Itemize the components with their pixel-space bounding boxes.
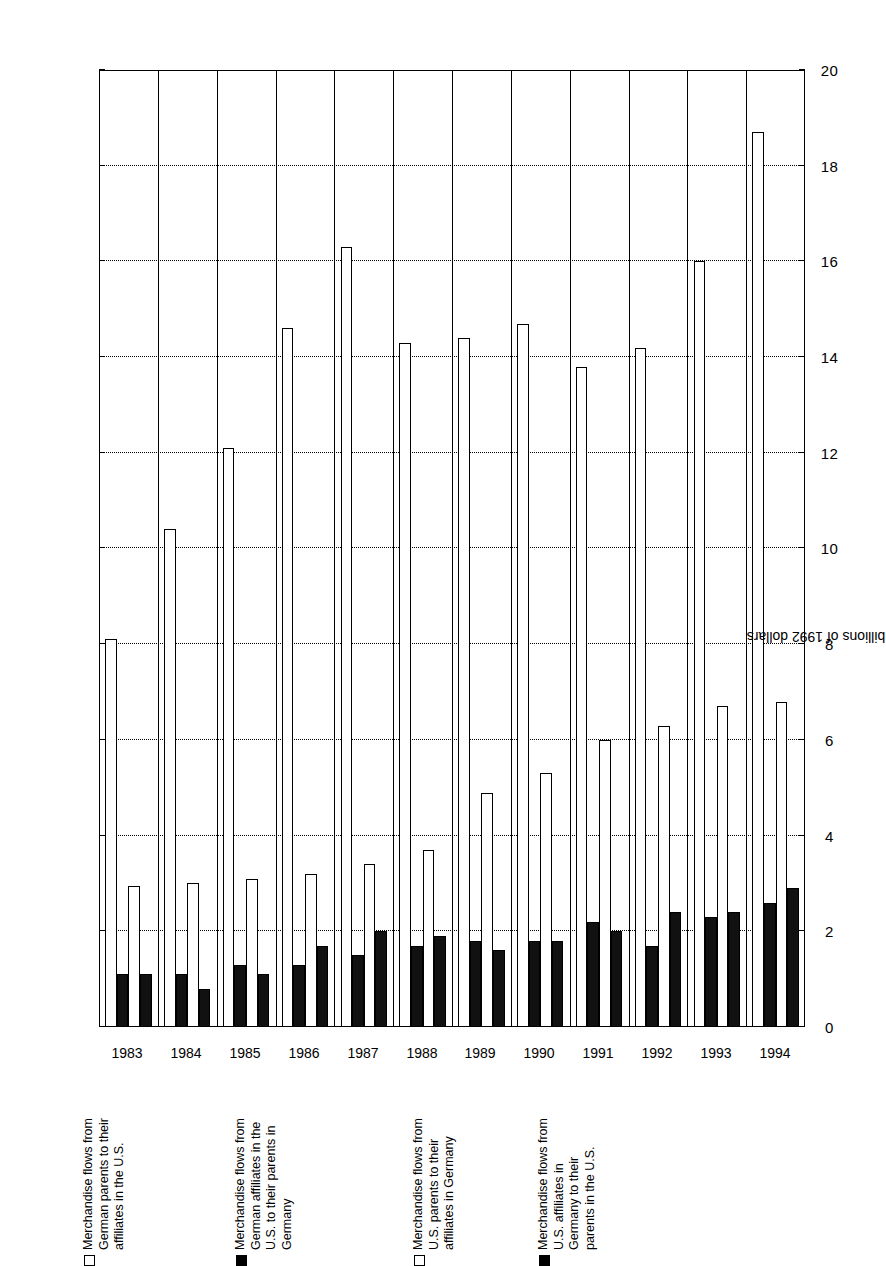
bar-1984-series1 [164, 529, 176, 1027]
axis-tickmark [99, 356, 105, 357]
group-separator [452, 70, 453, 1027]
bar-1991-series1 [576, 367, 588, 1027]
category-label-1985: 1985 [225, 1045, 265, 1061]
bar-1991-series4 [611, 931, 623, 1027]
chart-figure: Merchandise flows from German parents to… [63, 0, 823, 1266]
bar-1989-series3 [481, 793, 493, 1027]
bar-1989-series2 [470, 941, 482, 1027]
bar-1994-series3 [776, 702, 788, 1027]
axis-tickmark [799, 835, 805, 836]
figure-stage: Merchandise flows from German parents to… [0, 0, 886, 1266]
axis-tickmark [99, 548, 105, 549]
category-label-1986: 1986 [284, 1045, 324, 1061]
bar-1990-series3 [540, 773, 552, 1027]
legend-label: Merchandise flows from German parents to… [81, 1118, 128, 1250]
category-label-1994: 1994 [755, 1045, 795, 1061]
bar-1987-series4 [375, 931, 387, 1027]
bar-1989-series1 [458, 338, 470, 1027]
axis-tickmark [799, 548, 805, 549]
bar-1993-series2 [705, 917, 717, 1027]
axis-tickmark [99, 165, 105, 166]
bar-1994-series2 [764, 903, 776, 1027]
value-tick-label: 0 [816, 1019, 844, 1036]
value-tick-label: 20 [816, 62, 844, 79]
bar-1990-series2 [529, 941, 541, 1027]
axis-tickmark [799, 356, 805, 357]
axis-tickmark [99, 260, 105, 261]
legend-label: Merchandise flows from U.S. affiliates i… [536, 1118, 598, 1250]
legend-swatch-icon [414, 1255, 425, 1266]
group-separator [158, 70, 159, 1027]
group-separator [217, 70, 218, 1027]
category-label-1989: 1989 [460, 1045, 500, 1061]
group-separator [746, 70, 747, 1027]
category-label-1993: 1993 [696, 1045, 736, 1061]
group-separator [570, 70, 571, 1027]
value-tick-label: 4 [816, 827, 844, 844]
axis-tickmark [99, 739, 105, 740]
bar-1988-series4 [434, 936, 446, 1027]
bar-1988-series3 [423, 850, 435, 1027]
bar-1983-series4 [140, 974, 152, 1027]
axis-tickmark [799, 739, 805, 740]
value-tick-label: 10 [816, 540, 844, 557]
bar-1991-series3 [599, 740, 611, 1027]
bar-1987-series3 [364, 864, 376, 1027]
group-separator [687, 70, 688, 1027]
axis-tickmark [799, 260, 805, 261]
category-label-1988: 1988 [402, 1045, 442, 1061]
bar-1992-series4 [670, 912, 682, 1027]
bar-1987-series1 [341, 247, 353, 1027]
bar-1994-series4 [787, 888, 799, 1027]
axis-tickmark [99, 1026, 105, 1027]
bar-1986-series2 [293, 965, 305, 1027]
legend-label: Merchandise flows from German affiliates… [233, 1118, 295, 1250]
axis-tickmark [99, 930, 105, 931]
bar-1992-series3 [658, 726, 670, 1027]
category-label-1991: 1991 [578, 1045, 618, 1061]
bar-1985-series3 [246, 879, 258, 1027]
group-separator [511, 70, 512, 1027]
bar-1990-series1 [517, 324, 529, 1027]
bar-1987-series2 [352, 955, 364, 1027]
group-separator [393, 70, 394, 1027]
bar-1993-series3 [717, 706, 729, 1027]
bar-1984-series2 [176, 974, 188, 1027]
bar-1988-series1 [399, 343, 411, 1027]
axis-tickmark [99, 69, 105, 70]
bar-1993-series4 [728, 912, 740, 1027]
group-separator [276, 70, 277, 1027]
axis-tickmark [799, 69, 805, 70]
bar-1983-series1 [105, 639, 117, 1027]
plot-area [99, 70, 805, 1027]
bar-1989-series4 [493, 950, 505, 1027]
bar-1983-series3 [128, 886, 140, 1027]
category-label-1992: 1992 [637, 1045, 677, 1061]
bar-1985-series4 [258, 974, 270, 1027]
bar-1994-series1 [752, 132, 764, 1027]
bar-1985-series1 [223, 448, 235, 1027]
category-label-1984: 1984 [166, 1045, 206, 1061]
value-tick-label: 14 [816, 349, 844, 366]
legend-item-2: Merchandise flows from German affiliates… [233, 1118, 295, 1266]
legend-label: Merchandise flows from U.S. parents to t… [411, 1118, 458, 1250]
axis-title-label: billions of 1992 dollars [747, 629, 886, 645]
bar-1992-series1 [635, 348, 647, 1027]
category-label-1983: 1983 [107, 1045, 147, 1061]
bar-1986-series3 [305, 874, 317, 1027]
value-tick-label: 16 [816, 253, 844, 270]
axis-tickmark [799, 452, 805, 453]
axis-tickmark [799, 930, 805, 931]
axis-tickmark [799, 165, 805, 166]
axis-tickmark [99, 835, 105, 836]
bar-1984-series3 [187, 883, 199, 1027]
value-tick-label: 6 [816, 731, 844, 748]
group-separator [629, 70, 630, 1027]
bar-1992-series2 [646, 946, 658, 1027]
axis-tickmark [799, 1026, 805, 1027]
legend-item-1: Merchandise flows from German parents to… [81, 1118, 128, 1266]
value-tick-label: 12 [816, 444, 844, 461]
legend-swatch-icon [84, 1255, 95, 1266]
category-label-1990: 1990 [519, 1045, 559, 1061]
legend-item-4: Merchandise flows from U.S. affiliates i… [536, 1118, 598, 1266]
